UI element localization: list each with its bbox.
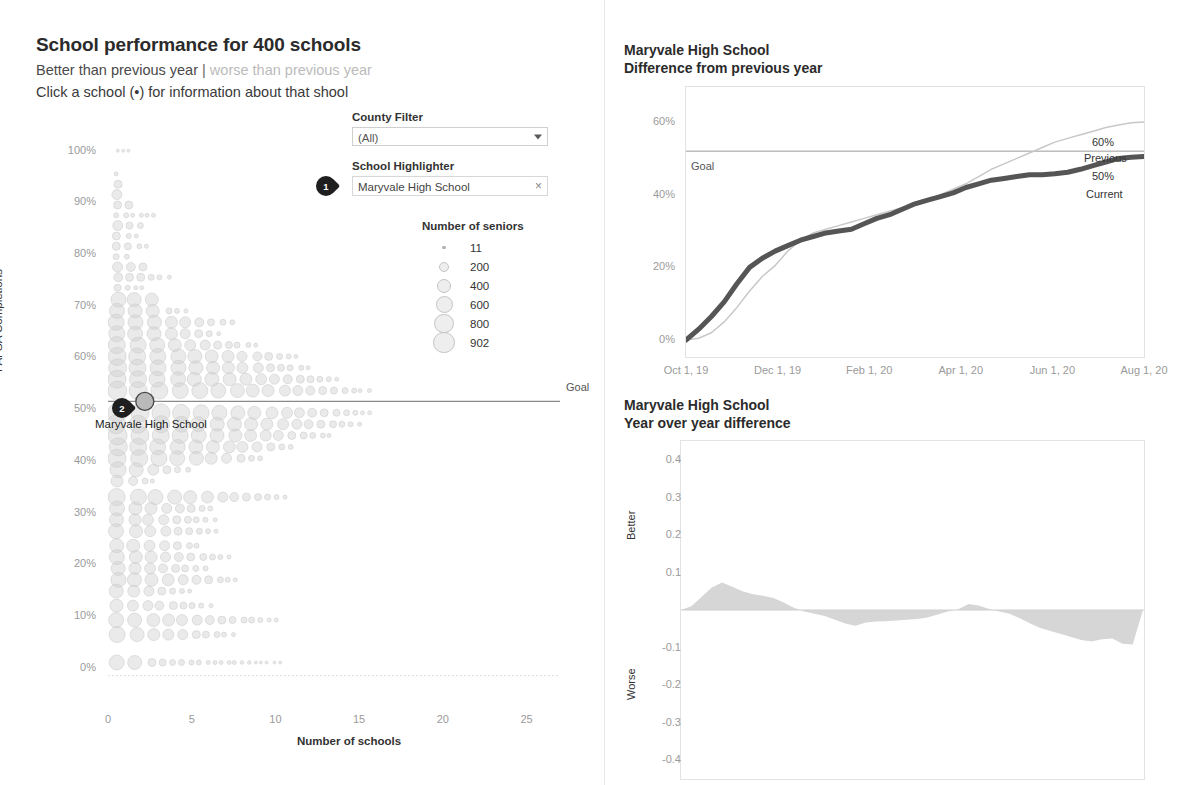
area-chart-canvas <box>681 441 1144 779</box>
scatter-y-tick: 100% <box>40 144 96 156</box>
annotation-pin-2: 2 <box>112 398 144 418</box>
area-y-tick: -0.4 <box>641 753 681 765</box>
scatter-x-tick: 20 <box>433 713 453 725</box>
area-chart-title-metric: Year over year difference <box>624 415 791 431</box>
dashboard-root: School performance for 400 schools Bette… <box>0 0 1186 785</box>
area-y-tick: 0.1 <box>641 566 681 578</box>
line-x-tick: Feb 1, 20 <box>841 364 897 376</box>
maryvale-point-label: Maryvale High School <box>95 418 207 430</box>
line-end-label-previous-name: Previous <box>1084 152 1127 164</box>
line-end-label-current-name: Current <box>1086 188 1123 200</box>
subtitle-separator: | <box>202 62 206 78</box>
line-x-tick: Apr 1, 20 <box>933 364 989 376</box>
scatter-x-tick: 5 <box>182 713 202 725</box>
line-x-tick: Dec 1, 19 <box>750 364 806 376</box>
area-y-tick: 0.4 <box>641 453 681 465</box>
line-y-tick: 60% <box>635 115 675 127</box>
county-filter-label: County Filter <box>352 111 423 123</box>
scatter-y-tick: 80% <box>40 247 96 259</box>
scatter-x-tick: 25 <box>517 713 537 725</box>
scatter-goal-label: Goal <box>566 381 589 393</box>
subtitle-worse: worse than previous year <box>210 62 372 78</box>
line-x-tick: Jun 1, 20 <box>1024 364 1080 376</box>
pin-number: 2 <box>112 398 132 418</box>
area-chart-title-school: Maryvale High School <box>624 397 769 413</box>
scatter-x-axis-title: Number of schools <box>297 735 401 747</box>
scatter-y-tick: 30% <box>40 506 96 518</box>
scatter-y-tick: 0% <box>40 661 96 673</box>
area-chart-worse-label: Worse <box>625 668 637 700</box>
scatter-x-tick: 0 <box>98 713 118 725</box>
scatter-x-tick: 15 <box>349 713 369 725</box>
area-chart-better-label: Better <box>625 511 637 540</box>
scatter-y-tick: 90% <box>40 195 96 207</box>
school-performance-panel: School performance for 400 schools Bette… <box>0 0 604 785</box>
area-y-tick: -0.3 <box>641 716 681 728</box>
line-chart-title-school: Maryvale High School <box>624 42 769 58</box>
scatter-y-tick: 60% <box>40 350 96 362</box>
scatter-y-tick: 10% <box>40 609 96 621</box>
scatter-plot[interactable] <box>108 130 560 678</box>
line-x-tick: Aug 1, 20 <box>1116 364 1172 376</box>
line-y-tick: 0% <box>635 333 675 345</box>
difference-line-chart[interactable] <box>685 86 1145 358</box>
line-x-tick: Oct 1, 19 <box>658 364 714 376</box>
scatter-x-tick: 10 <box>265 713 285 725</box>
scatter-y-axis-title: FAFSA Completions <box>0 269 4 372</box>
scatter-y-tick: 50% <box>40 402 96 414</box>
subtitle-better: Better than previous year <box>36 62 198 78</box>
line-y-tick: 40% <box>635 188 675 200</box>
year-over-year-area-chart[interactable] <box>680 440 1145 780</box>
scatter-y-tick: 40% <box>40 454 96 466</box>
scatter-y-tick: 70% <box>40 299 96 311</box>
area-y-tick: 0.2 <box>641 528 681 540</box>
line-end-label-current-value: 50% <box>1092 170 1114 182</box>
page-title: School performance for 400 schools <box>36 34 361 56</box>
area-y-tick: 0.3 <box>641 491 681 503</box>
scatter-canvas <box>108 130 560 678</box>
detail-panel: Maryvale High School Difference from pre… <box>605 0 1186 785</box>
page-instruction: Click a school (•) for information about… <box>36 84 348 100</box>
scatter-y-tick: 20% <box>40 557 96 569</box>
line-chart-title-metric: Difference from previous year <box>624 60 822 76</box>
page-subtitle: Better than previous year | worse than p… <box>36 62 372 78</box>
line-chart-canvas <box>686 87 1144 357</box>
line-y-tick: 20% <box>635 260 675 272</box>
area-y-tick: -0.2 <box>641 678 681 690</box>
line-chart-goal-label: Goal <box>691 160 714 172</box>
area-y-tick: -0.1 <box>641 641 681 653</box>
line-end-label-previous-value: 60% <box>1092 136 1114 148</box>
